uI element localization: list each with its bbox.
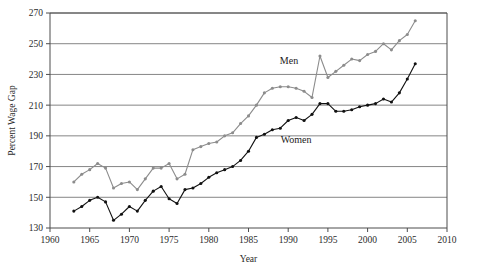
data-point <box>295 87 298 90</box>
data-point <box>295 116 298 119</box>
y-tick-label: 150 <box>29 193 44 203</box>
data-point <box>168 197 171 200</box>
data-point <box>374 102 377 105</box>
data-point <box>239 122 242 125</box>
data-point <box>287 85 290 88</box>
x-axis-title: Year <box>240 254 258 264</box>
data-point <box>199 182 202 185</box>
data-point <box>80 173 83 176</box>
data-point <box>263 91 266 94</box>
data-point <box>406 77 409 80</box>
data-point <box>247 114 250 117</box>
data-point <box>223 134 226 137</box>
x-tick-label: 1985 <box>239 235 258 245</box>
data-point <box>358 105 361 108</box>
x-tick-label: 1990 <box>279 235 298 245</box>
data-point <box>183 173 186 176</box>
y-axis-ticks: 130150170190210230250270 <box>29 8 50 233</box>
data-point <box>303 119 306 122</box>
data-point <box>406 33 409 36</box>
y-tick-label: 170 <box>29 162 44 172</box>
data-point <box>136 210 139 213</box>
data-point <box>239 159 242 162</box>
data-point <box>382 97 385 100</box>
data-point <box>223 168 226 171</box>
y-axis-title: Percent Wage Gap <box>7 85 17 156</box>
x-tick-label: 1980 <box>199 235 218 245</box>
data-point <box>255 104 258 107</box>
data-point <box>366 104 369 107</box>
x-tick-label: 2010 <box>438 235 457 245</box>
data-point <box>175 177 178 180</box>
data-point <box>334 110 337 113</box>
x-tick-label: 1960 <box>41 235 60 245</box>
data-point <box>366 53 369 56</box>
data-point <box>152 167 155 170</box>
data-point <box>398 39 401 42</box>
data-point <box>112 187 115 190</box>
data-point <box>215 140 218 143</box>
data-point <box>263 133 266 136</box>
data-point <box>96 162 99 165</box>
data-point <box>326 102 329 105</box>
y-tick-label: 130 <box>29 223 44 233</box>
data-point <box>374 50 377 53</box>
x-tick-label: 1995 <box>318 235 337 245</box>
series-label-women: Women <box>281 134 312 145</box>
y-tick-label: 190 <box>29 131 44 141</box>
data-point <box>183 188 186 191</box>
data-point <box>80 205 83 208</box>
data-point <box>191 148 194 151</box>
data-point <box>342 110 345 113</box>
data-point <box>136 188 139 191</box>
plot-background <box>50 13 447 228</box>
data-point <box>334 70 337 73</box>
data-point <box>271 87 274 90</box>
data-point <box>303 90 306 93</box>
data-point <box>88 199 91 202</box>
data-point <box>350 108 353 111</box>
data-point <box>199 145 202 148</box>
data-point <box>318 102 321 105</box>
data-point <box>271 128 274 131</box>
y-tick-label: 250 <box>29 39 44 49</box>
x-tick-label: 2005 <box>398 235 417 245</box>
data-point <box>72 180 75 183</box>
data-point <box>112 219 115 222</box>
data-point <box>279 127 282 130</box>
data-point <box>120 182 123 185</box>
data-point <box>144 177 147 180</box>
data-point <box>191 187 194 190</box>
data-point <box>382 42 385 45</box>
y-tick-label: 270 <box>29 8 44 18</box>
data-point <box>358 59 361 62</box>
x-tick-label: 1975 <box>160 235 179 245</box>
data-point <box>104 167 107 170</box>
data-point <box>414 19 417 22</box>
data-point <box>168 162 171 165</box>
x-tick-label: 2000 <box>358 235 377 245</box>
data-point <box>390 101 393 104</box>
data-point <box>231 131 234 134</box>
data-point <box>231 165 234 168</box>
data-point <box>160 185 163 188</box>
data-point <box>175 202 178 205</box>
data-point <box>96 196 99 199</box>
data-point <box>215 171 218 174</box>
y-tick-label: 210 <box>29 101 44 111</box>
chart-canvas: 130150170190210230250270 196019651970197… <box>0 0 480 270</box>
data-point <box>88 168 91 171</box>
x-tick-label: 1965 <box>80 235 99 245</box>
data-point <box>398 91 401 94</box>
data-point <box>310 96 313 99</box>
data-point <box>326 76 329 79</box>
data-point <box>120 213 123 216</box>
plot-area-background <box>50 13 447 228</box>
wage-gap-chart: 130150170190210230250270 196019651970197… <box>0 0 480 270</box>
data-point <box>310 113 313 116</box>
data-point <box>144 199 147 202</box>
data-point <box>247 150 250 153</box>
data-point <box>128 205 131 208</box>
data-point <box>207 176 210 179</box>
y-tick-label: 230 <box>29 70 44 80</box>
